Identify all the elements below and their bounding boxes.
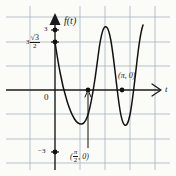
point-y-neg3-dot [53,150,58,155]
figure-canvas: f(t) t 0 3 3 √3 2 −3 (π, 0) ( π 2 , 0) [0,0,176,176]
annotation-point-pi-over-2: ( π 2 , 0) [70,149,89,165]
annotation-close: , 0) [78,152,89,161]
annotation-point-pi: (π, 0) [118,72,135,80]
point-pi-dot [120,88,125,93]
origin-label: 0 [44,93,49,102]
y-axis-arrowhead [50,13,61,25]
y-axis-label: f(t) [64,16,76,26]
point-y-3root3over2-dot [53,40,58,45]
y-tick-denominator: 2 [30,43,40,50]
y-tick-label-3root3over2: 3 √3 2 [26,34,40,51]
point-y-3-dot [53,28,58,33]
x-axis-label: t [165,85,168,94]
y-tick-label-3: 3 [44,26,48,33]
y-tick-label-neg3: −3 [38,148,45,155]
y-tick-fraction: √3 2 [30,34,40,51]
